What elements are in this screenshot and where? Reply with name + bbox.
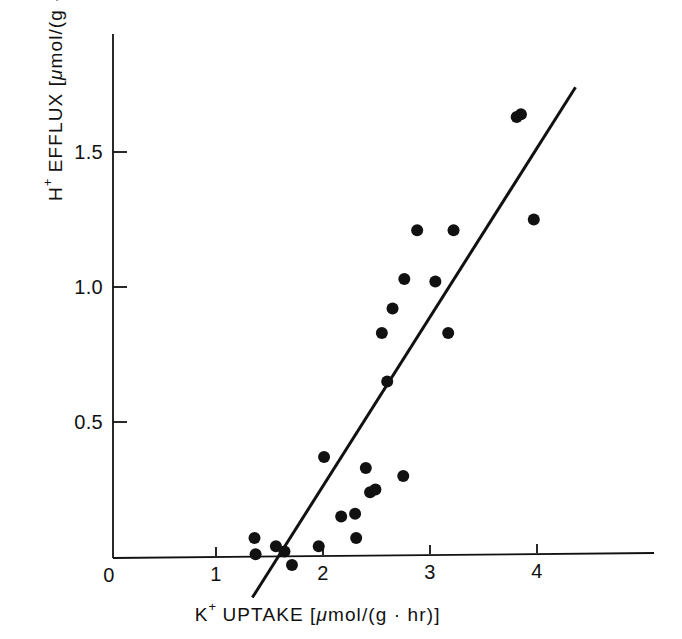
data-point	[286, 559, 298, 571]
data-point	[528, 214, 540, 226]
y-axis-title-symbol: H	[45, 186, 66, 201]
x-axis-title-unit-close: ]	[434, 604, 440, 625]
axis-lines	[113, 34, 654, 558]
x-axis-title-unit-mu: μ	[317, 604, 329, 625]
regression-line-segment	[252, 87, 575, 597]
scatter-plot-figure: 01234 0.51.01.5 K+ UPTAKE [μmol/(g · hr)…	[0, 0, 682, 639]
data-point	[360, 462, 372, 474]
x-axis-title-word: UPTAKE	[216, 604, 310, 625]
data-point	[448, 224, 460, 236]
y-axis-title: H+ EFFLUX [μmol/(g · hr)]	[40, 0, 67, 201]
x-axis-line	[113, 553, 654, 558]
y-tick-label: 1.5	[74, 141, 103, 164]
y-axis-title-unit-mu: μ	[45, 68, 66, 80]
data-point	[350, 532, 362, 544]
data-point	[411, 224, 423, 236]
regression-line	[252, 87, 575, 597]
y-axis-title-unit-open: [	[45, 80, 66, 86]
x-tick-label: 3	[424, 561, 435, 584]
plot-canvas	[0, 0, 682, 639]
data-point	[250, 548, 262, 560]
y-axis-title-charge: +	[40, 178, 55, 186]
y-axis-title-word: EFFLUX	[45, 86, 66, 178]
data-point	[249, 532, 261, 544]
data-point	[442, 327, 454, 339]
x-axis-title-symbol: K	[195, 604, 209, 625]
data-point	[335, 511, 347, 523]
axis-ticks	[113, 152, 537, 556]
data-points	[249, 108, 540, 571]
data-point	[349, 508, 361, 520]
x-axis-title-unit-rest: mol/(g · hr)	[328, 604, 434, 625]
y-tick-label: 1.0	[74, 276, 103, 299]
data-point	[397, 470, 409, 482]
x-tick-label: 0	[103, 564, 114, 587]
data-point	[376, 327, 388, 339]
x-tick-label: 2	[317, 562, 328, 585]
data-point	[515, 108, 527, 120]
data-point	[278, 546, 290, 558]
x-tick-label: 1	[210, 563, 221, 586]
data-point	[398, 273, 410, 285]
data-point	[318, 451, 330, 463]
x-tick-label: 4	[531, 560, 542, 583]
data-point	[387, 303, 399, 315]
x-axis-title: K+ UPTAKE [μmol/(g · hr)]	[195, 599, 441, 626]
y-tick-label: 0.5	[74, 411, 103, 434]
data-point	[381, 376, 393, 388]
data-point	[429, 276, 441, 288]
y-axis-title-unit-rest: mol/(g · hr)	[45, 0, 66, 68]
data-point	[313, 540, 325, 552]
data-point	[369, 484, 381, 496]
